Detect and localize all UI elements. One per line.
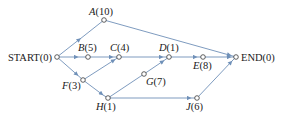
edge-start-a-tail (80, 20, 104, 39)
node-end (234, 55, 239, 60)
node-h (106, 96, 111, 101)
label-e: E(8) (192, 60, 212, 72)
node-j (195, 96, 200, 101)
nodes (55, 18, 239, 101)
label-f: F(3) (61, 80, 81, 92)
edge-f-c (83, 60, 115, 81)
label-h: H(1) (95, 101, 116, 113)
node-a (102, 18, 107, 23)
label-g: G(7) (146, 76, 166, 88)
edge-f-h (83, 80, 103, 95)
node-f (81, 78, 86, 83)
edge-start-a (57, 39, 81, 58)
label-end: END(0) (241, 52, 275, 64)
node-start (55, 55, 60, 60)
label-start: START(0) (8, 52, 53, 64)
node-b (86, 55, 91, 60)
node-c (117, 55, 122, 60)
edge-start-f (57, 57, 78, 76)
edge-h-g (108, 74, 144, 98)
label-d: D(1) (158, 42, 179, 54)
node-d (167, 55, 172, 60)
label-c: C(4) (110, 42, 130, 54)
label-j: J(6) (186, 101, 203, 113)
node-e (201, 55, 206, 60)
edge-g-d (144, 61, 164, 75)
activity-network-diagram: START(0) A(10) B(5) C(4) D(1) E(8) END(0… (0, 0, 282, 123)
label-a: A(10) (88, 6, 113, 18)
label-b: B(5) (78, 42, 97, 54)
